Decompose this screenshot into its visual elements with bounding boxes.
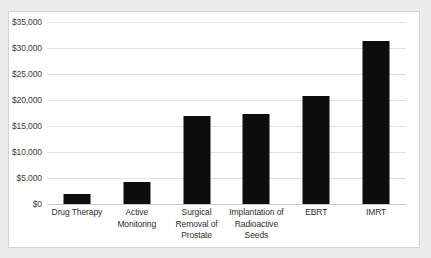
bar-slot <box>346 22 406 204</box>
x-tick-label-2: Surgical Removal of Prostate <box>167 207 227 242</box>
bar-surgical-removal-of-prostate[interactable] <box>183 116 210 204</box>
bars-group <box>47 22 406 204</box>
y-tick-label-35000: $35,000 <box>12 17 42 27</box>
gridline-0 <box>47 204 406 205</box>
bar-slot <box>227 22 287 204</box>
y-tick-label-30000: $30,000 <box>12 43 42 53</box>
bar-slot <box>107 22 167 204</box>
bar-implantation-of-radioactive-seeds[interactable] <box>243 114 270 204</box>
x-tick-label-4: EBRT <box>286 207 346 219</box>
bar-slot <box>47 22 107 204</box>
y-tick-label-5000: $5,000 <box>17 173 42 183</box>
x-tick-label-3: Implantation of Radioactive Seeds <box>227 207 287 242</box>
bar-imrt[interactable] <box>363 41 390 204</box>
plot-area: $0$5,000$10,000$15,000$20,000$25,000$30,… <box>47 22 406 204</box>
x-tick-label-1: Active Monitoring <box>107 207 167 230</box>
bar-slot <box>286 22 346 204</box>
y-tick-label-20000: $20,000 <box>12 95 42 105</box>
y-tick-label-10000: $10,000 <box>12 147 42 157</box>
x-tick-label-5: IMRT <box>346 207 406 219</box>
y-tick-label-15000: $15,000 <box>12 121 42 131</box>
bar-ebrt[interactable] <box>303 96 330 204</box>
y-tick-label-25000: $25,000 <box>12 69 42 79</box>
chart-panel: $0$5,000$10,000$15,000$20,000$25,000$30,… <box>8 11 420 248</box>
x-axis-category-labels: Drug TherapyActive MonitoringSurgical Re… <box>47 207 406 253</box>
x-tick-label-0: Drug Therapy <box>47 207 107 219</box>
bar-active-monitoring[interactable] <box>123 182 150 204</box>
bar-slot <box>167 22 227 204</box>
bar-drug-therapy[interactable] <box>63 194 90 204</box>
y-tick-label-0: $0 <box>33 199 42 209</box>
